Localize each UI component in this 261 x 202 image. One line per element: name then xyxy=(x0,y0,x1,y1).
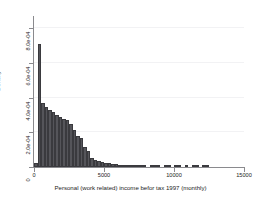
y-tick-label: 8.0e-04 xyxy=(25,28,31,54)
x-tick-label: 0 xyxy=(32,172,35,178)
y-tick-label: 6.0e-04 xyxy=(25,63,31,89)
x-axis-line xyxy=(33,167,245,168)
x-tick-label: 5000 xyxy=(98,172,110,178)
y-axis-line xyxy=(33,16,34,168)
y-tick-label: 4.0e-04 xyxy=(25,98,31,124)
y-tick-label: 2.0e-04 xyxy=(25,132,31,158)
x-tick-label: 10000 xyxy=(166,172,182,178)
gridline xyxy=(34,62,244,63)
gridline xyxy=(34,97,244,98)
histogram-figure: 02.0e-044.0e-046.0e-048.0e-04 0500010000… xyxy=(0,0,261,202)
plot-area xyxy=(34,18,244,167)
gridline xyxy=(34,27,244,28)
x-axis-title: Personal (work related) income befor tax… xyxy=(0,184,261,191)
x-tick-label: 15000 xyxy=(236,172,252,178)
y-axis-title: Density xyxy=(0,71,1,91)
